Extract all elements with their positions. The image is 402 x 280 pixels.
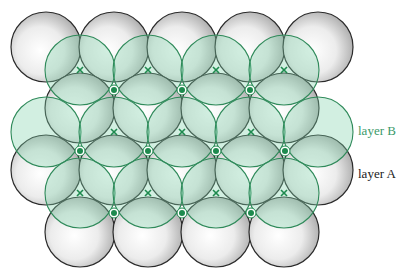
dot-mark-icon bbox=[77, 148, 83, 154]
layer-b-sphere bbox=[11, 97, 81, 167]
dot-mark-icon bbox=[179, 87, 185, 93]
dot-mark-icon bbox=[179, 210, 185, 216]
layer-a-label: layer A bbox=[358, 166, 396, 182]
dot-mark-icon bbox=[111, 210, 117, 216]
dot-mark-icon bbox=[213, 148, 219, 154]
dot-mark-icon bbox=[282, 148, 288, 154]
dot-mark-icon bbox=[248, 210, 254, 216]
layer-b-label: layer B bbox=[358, 123, 396, 139]
close-packed-layers-diagram bbox=[0, 0, 402, 280]
dot-mark-icon bbox=[145, 148, 151, 154]
layer-b-sphere bbox=[283, 97, 353, 167]
dot-mark-icon bbox=[247, 87, 253, 93]
dot-mark-icon bbox=[111, 87, 117, 93]
